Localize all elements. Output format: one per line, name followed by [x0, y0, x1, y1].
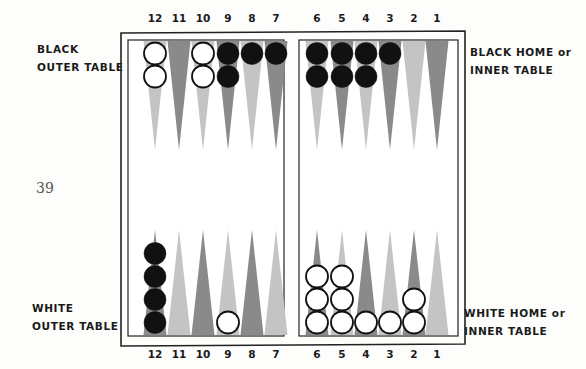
white-checker — [306, 312, 328, 334]
black-checker — [355, 66, 377, 88]
backgammon-board — [0, 0, 586, 369]
white-checker — [217, 312, 239, 334]
white-checker — [403, 312, 425, 334]
black-checker — [144, 289, 166, 311]
white-checker — [331, 266, 353, 288]
white-checker — [192, 66, 214, 88]
black-checker — [265, 43, 287, 65]
black-checker — [217, 43, 239, 65]
black-checker — [144, 266, 166, 288]
black-checker — [144, 243, 166, 265]
white-checker — [403, 289, 425, 311]
white-checker — [144, 43, 166, 65]
white-checker — [331, 312, 353, 334]
white-checker — [379, 312, 401, 334]
black-checker — [241, 43, 263, 65]
white-checker — [144, 66, 166, 88]
black-checker — [306, 66, 328, 88]
black-checker — [379, 43, 401, 65]
black-checker — [331, 66, 353, 88]
black-checker — [217, 66, 239, 88]
white-checker — [306, 266, 328, 288]
white-checker — [355, 312, 377, 334]
black-checker — [306, 43, 328, 65]
black-checker — [144, 312, 166, 334]
white-checker — [306, 289, 328, 311]
black-checker — [355, 43, 377, 65]
black-checker — [331, 43, 353, 65]
white-checker — [192, 43, 214, 65]
white-checker — [331, 289, 353, 311]
